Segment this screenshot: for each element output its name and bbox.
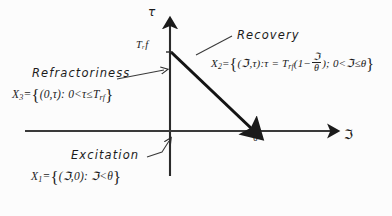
- excitation-set-index: 1: [38, 175, 42, 184]
- refractoriness-label: Refractoriness: [32, 68, 130, 80]
- excitation-label: Excitation: [71, 150, 139, 162]
- tau-axis-label: τ: [148, 6, 156, 18]
- figure-canvas: τ ℑ Tᵣf θ Recovery X2={(ℑ,τ):τ = Trf(1−ℑ…: [0, 0, 392, 216]
- excitation-leader-line: [147, 141, 169, 157]
- recovery-formula: X2={(ℑ,τ):τ = Trf(1−ℑθ); 0<ℑ≤θ}: [211, 52, 374, 74]
- recovery-label: Recovery: [237, 30, 300, 42]
- excitation-formula: X1={(ℑ,0): ℑ<θ}: [31, 170, 121, 187]
- recovery-set-symbol: X: [211, 57, 218, 69]
- recovery-set-index: 2: [218, 62, 222, 71]
- refractoriness-formula: X3={(0,τ): 0<τ≤Trf}: [12, 88, 113, 105]
- theta-tick-label: θ: [253, 133, 258, 143]
- refractoriness-set-index: 3: [19, 93, 23, 102]
- trf-tick-label: Tᵣf: [136, 40, 149, 51]
- j-axis-label: ℑ: [344, 128, 354, 141]
